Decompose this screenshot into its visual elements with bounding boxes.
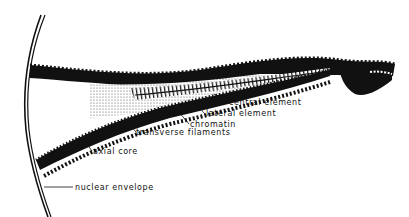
label-transverse-filaments: transverse filaments xyxy=(136,129,230,137)
label-central-element: central element xyxy=(229,99,301,107)
label-lateral-element: lateral element xyxy=(206,110,276,118)
synaptonemal-complex-diagram: central element lateral element chromati… xyxy=(0,0,409,217)
diagram-drawing xyxy=(0,0,409,217)
label-axial-core: axial core xyxy=(93,148,138,156)
label-nuclear-envelope: nuclear envelope xyxy=(75,184,154,192)
